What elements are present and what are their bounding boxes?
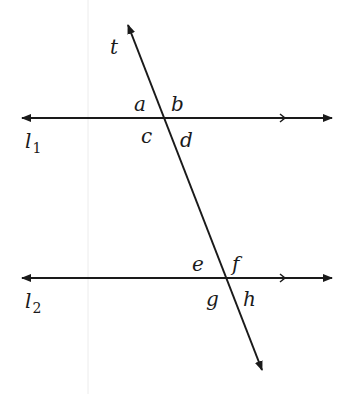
angle-label-h: h xyxy=(243,287,256,311)
label-l1: l1 xyxy=(25,129,41,156)
angle-label-e: e xyxy=(192,252,204,276)
angle-label-f: f xyxy=(230,252,243,276)
transversal-t xyxy=(128,25,262,370)
label-t: t xyxy=(110,35,119,59)
angle-label-a: a xyxy=(134,92,146,116)
parallel-lines-diagram: t l1 l2 a b c d e f g h xyxy=(0,0,355,394)
line-l2 xyxy=(22,274,332,282)
angle-label-g: g xyxy=(206,287,219,311)
label-l2: l2 xyxy=(25,289,41,316)
angle-label-c: c xyxy=(141,124,152,148)
angle-label-b: b xyxy=(171,92,184,116)
angle-label-d: d xyxy=(180,128,193,152)
